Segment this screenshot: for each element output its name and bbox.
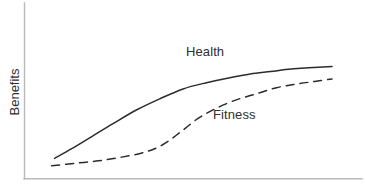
chart-canvas <box>0 0 365 190</box>
health-curve <box>55 67 332 159</box>
health-series-label: Health <box>186 45 224 58</box>
y-axis-label: Benefits <box>7 69 22 116</box>
fitness-curve <box>52 79 332 166</box>
fitness-series-label: Fitness <box>213 108 256 121</box>
benefits-chart: Benefits Health Fitness <box>0 0 365 190</box>
